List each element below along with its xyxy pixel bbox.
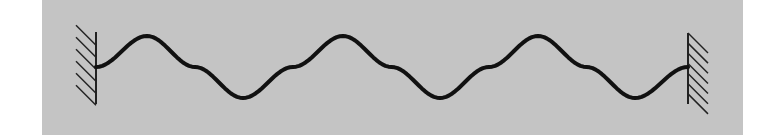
standing-wave-diagram — [0, 0, 780, 137]
